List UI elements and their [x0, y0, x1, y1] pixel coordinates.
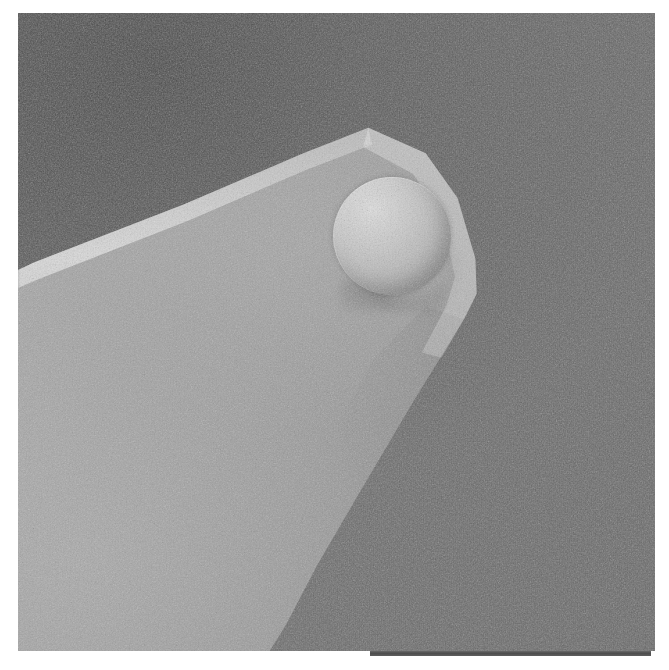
cantilever-surface-sheen [18, 13, 655, 651]
microsphere-rim [333, 177, 451, 295]
scale-bar [370, 651, 651, 656]
sem-micrograph-image [18, 13, 655, 651]
screenshot-root [0, 0, 669, 670]
cantilever-wedge [18, 13, 655, 651]
